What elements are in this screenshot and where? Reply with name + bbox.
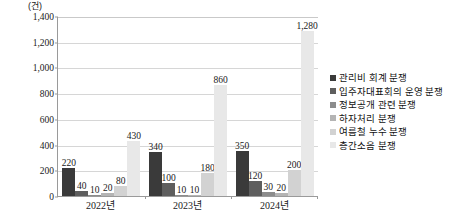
legend-item[interactable]: 하자처리 분쟁: [330, 112, 460, 126]
bar[interactable]: 1,280: [301, 31, 314, 196]
bar-group-bars: 22040102080430: [58, 17, 145, 196]
legend-item-label: 하자처리 분쟁: [339, 113, 396, 124]
bar[interactable]: 20: [275, 193, 288, 196]
bar-group: 3401001010180860: [145, 17, 232, 196]
bar-slot: 10: [175, 17, 188, 196]
bar-slot: 340: [149, 17, 162, 196]
bar-slot: 350: [236, 17, 249, 196]
y-axis-tick-label: 400: [8, 141, 58, 151]
bar-value-label: 80: [116, 176, 126, 186]
bar-value-label: 30: [263, 182, 273, 192]
legend-item[interactable]: 관리비 회계 분쟁: [330, 71, 460, 85]
bar-value-label: 220: [62, 158, 76, 168]
legend-item[interactable]: 입주자대표회의 운영 분쟁: [330, 85, 460, 99]
bar-chart: (건) 1,4001,2001,0008006004002000 2204010…: [0, 0, 464, 224]
plot-area: 1,4001,2001,0008006004002000 22040102080…: [57, 17, 318, 197]
bar[interactable]: 20: [101, 193, 114, 196]
bar[interactable]: 340: [149, 152, 162, 196]
bar-slot: 40: [75, 17, 88, 196]
legend-swatch-icon: [330, 129, 336, 135]
bar-value-label: 40: [77, 181, 87, 191]
bar-slot: 100: [162, 17, 175, 196]
bar-slot: 10: [88, 17, 101, 196]
bar-slot: 860: [214, 17, 227, 196]
legend-item-label: 입주자대표회의 운영 분쟁: [339, 86, 443, 97]
bar-slot: 10: [188, 17, 201, 196]
bar-value-label: 430: [127, 131, 141, 141]
bar[interactable]: 180: [201, 173, 214, 196]
bar-value-label: 10: [90, 185, 100, 195]
bar[interactable]: 350: [236, 151, 249, 196]
bar-value-label: 350: [235, 141, 249, 151]
bar-value-label: 10: [177, 185, 187, 195]
legend-swatch-icon: [330, 102, 336, 108]
y-axis-unit-label: (건): [28, 1, 42, 11]
bar-value-label: 1,280: [296, 21, 317, 31]
x-axis-labels: 2022년2023년2024년: [57, 200, 318, 212]
bar[interactable]: 430: [127, 141, 140, 196]
x-axis-category-label: 2023년: [144, 200, 231, 212]
legend-item-label: 층간소음 분쟁: [339, 140, 396, 151]
legend: 관리비 회계 분쟁입주자대표회의 운영 분쟁정보공개 관련 분쟁하자처리 분쟁여…: [330, 71, 460, 152]
bar-value-label: 200: [287, 160, 301, 170]
bar-group-bars: 35012030202001,280: [231, 17, 318, 196]
bar-group: 35012030202001,280: [231, 17, 318, 196]
legend-swatch-icon: [330, 142, 336, 148]
bar-groups: 2204010208043034010010101808603501203020…: [58, 17, 318, 196]
x-axis-tick-mark: [231, 196, 232, 199]
bar-value-label: 340: [148, 142, 162, 152]
bar[interactable]: 100: [162, 183, 175, 196]
bar-slot: 120: [249, 17, 262, 196]
bar-value-label: 20: [103, 183, 113, 193]
legend-item-label: 정보공개 관련 분쟁: [339, 99, 416, 110]
x-axis-category-label: 2024년: [231, 200, 318, 212]
bar-value-label: 180: [200, 163, 214, 173]
bar-slot: 220: [62, 17, 75, 196]
y-axis-tick-label: 200: [8, 166, 58, 176]
bar-slot: 20: [275, 17, 288, 196]
y-axis-tick-label: 600: [8, 115, 58, 125]
legend-item[interactable]: 정보공개 관련 분쟁: [330, 98, 460, 112]
bar[interactable]: 40: [75, 191, 88, 196]
legend-item[interactable]: 층간소음 분쟁: [330, 139, 460, 153]
bar-value-label: 100: [161, 173, 175, 183]
y-axis-tick-label: 0: [8, 192, 58, 202]
bar-slot: 20: [101, 17, 114, 196]
x-axis-category-label: 2022년: [57, 200, 144, 212]
bar[interactable]: 200: [288, 170, 301, 196]
bar-slot: 1,280: [301, 17, 314, 196]
bar-value-label: 120: [248, 171, 262, 181]
bar-slot: 30: [262, 17, 275, 196]
bar[interactable]: 10: [188, 195, 201, 196]
bar-value-label: 20: [276, 183, 286, 193]
legend-swatch-icon: [330, 88, 336, 94]
bar-slot: 80: [114, 17, 127, 196]
legend-item[interactable]: 여름철 누수 분쟁: [330, 125, 460, 139]
legend-item-label: 여름철 누수 분쟁: [339, 126, 407, 137]
bar-value-label: 10: [190, 185, 200, 195]
bar[interactable]: 80: [114, 186, 127, 196]
y-axis-tick-label: 1,000: [8, 63, 58, 73]
bar[interactable]: 220: [62, 168, 75, 196]
legend-swatch-icon: [330, 115, 336, 121]
y-axis-tick-label: 1,400: [8, 12, 58, 22]
bar[interactable]: 120: [249, 181, 262, 196]
bar-slot: 180: [201, 17, 214, 196]
bar[interactable]: 10: [175, 195, 188, 196]
x-axis-tick-mark: [145, 196, 146, 199]
legend-item-label: 관리비 회계 분쟁: [339, 72, 407, 83]
bar-value-label: 860: [213, 75, 227, 85]
legend-swatch-icon: [330, 75, 336, 81]
bar-slot: 430: [127, 17, 140, 196]
bar-slot: 200: [288, 17, 301, 196]
x-axis-tick-mark: [317, 196, 318, 199]
y-axis-tick-label: 1,200: [8, 38, 58, 48]
y-axis-tick-label: 800: [8, 89, 58, 99]
bar[interactable]: 10: [88, 195, 101, 196]
bar-group-bars: 3401001010180860: [145, 17, 232, 196]
bar[interactable]: 860: [214, 85, 227, 196]
bar[interactable]: 30: [262, 192, 275, 196]
bar-group: 22040102080430: [58, 17, 145, 196]
